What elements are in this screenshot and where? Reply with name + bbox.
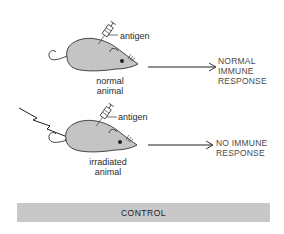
irradiated-animal-label: irradiated animal [80,157,136,177]
result-line: RESPONSE [216,148,267,158]
irradiated-mouse-icon [49,120,137,152]
result-line: IMMUNE [218,66,267,76]
arrow-right-icon [148,63,216,71]
result-line: RESPONSE [218,76,267,86]
arrow-right-icon [148,141,213,149]
antigen-label-bottom: antigen [118,112,148,122]
immune-response-diagram: antigen normal animal NORMAL IMMUNE RESP… [0,0,284,234]
animal-label-line: animal [88,86,132,96]
antigen-label-top: antigen [120,31,150,41]
control-label: CONTROL [121,208,166,218]
radiation-bolt-icon [19,108,71,140]
animal-label-line: animal [80,167,136,177]
normal-animal-label: normal animal [88,76,132,96]
no-immune-response-label: NO IMMUNE RESPONSE [216,138,267,158]
result-line: NO IMMUNE [216,138,267,148]
control-bar: CONTROL [17,203,270,222]
result-line: NORMAL [218,56,267,66]
normal-mouse-icon [49,38,138,71]
normal-immune-response-label: NORMAL IMMUNE RESPONSE [218,56,267,86]
animal-label-line: normal [88,76,132,86]
animal-label-line: irradiated [80,157,136,167]
